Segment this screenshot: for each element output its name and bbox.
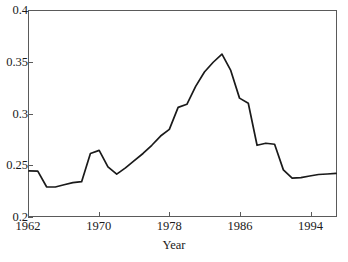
series-1-polyline: [29, 54, 336, 187]
x-tick-label: 1986: [227, 220, 252, 233]
x-tick-label: 1994: [298, 220, 323, 233]
y-tick-label: 0.4: [12, 4, 28, 17]
y-tick-label: 0.3: [12, 107, 28, 120]
x-tick-label: 1970: [86, 220, 111, 233]
y-tick-label: 0.35: [6, 56, 28, 69]
x-tick-label: 1978: [157, 220, 182, 233]
line-chart: 0.20.250.30.350.4 19621970197819861994 Y…: [0, 0, 348, 262]
x-tick-label: 1962: [16, 220, 41, 233]
y-tick-mark: [28, 217, 33, 218]
x-tick-mark: [240, 212, 241, 217]
x-axis-title: Year: [0, 239, 348, 252]
x-tick-mark: [28, 212, 29, 217]
plot-area: [28, 10, 337, 217]
x-tick-mark: [311, 212, 312, 217]
clipped-caption-sliver: [6, 0, 306, 4]
x-tick-mark: [99, 212, 100, 217]
y-tick-label: 0.25: [6, 159, 28, 172]
series-line-layer: [29, 11, 336, 216]
x-tick-mark: [169, 212, 170, 217]
